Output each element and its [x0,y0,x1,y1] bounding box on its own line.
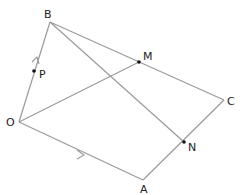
label-O: O [6,116,15,129]
segment-BN [50,22,184,142]
label-C: C [227,95,235,108]
label-N: N [188,141,196,154]
geometry-diagram: B P O M C N A [0,0,242,195]
segment-OM [19,62,139,122]
segment-BC [50,22,224,100]
label-A: A [140,183,148,195]
arrow-icon-OB [32,57,39,64]
point-N [182,140,186,144]
label-P: P [39,68,46,81]
label-M: M [143,50,153,63]
point-M [137,60,141,64]
label-B: B [44,8,52,21]
segment-OA [19,122,143,180]
segment-AC [143,100,224,180]
point-P [32,69,36,73]
